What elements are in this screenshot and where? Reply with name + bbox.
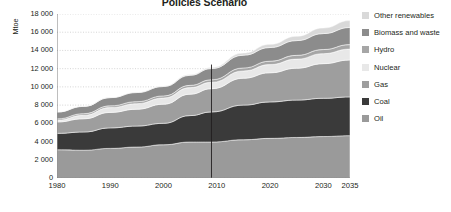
y-axis-tick-labels: 18 00016 00014 00012 00010 0008 0006 000… — [0, 0, 53, 200]
legend-swatch-icon — [362, 81, 369, 88]
y-tick-18000: 18 000 — [30, 10, 53, 18]
legend-item-label: Biomass and waste — [374, 28, 440, 37]
legend-item-biomass-and-waste[interactable]: Biomass and waste — [362, 24, 451, 41]
y-tick-4000: 4 000 — [35, 138, 54, 146]
stacked-area-plot — [57, 14, 350, 178]
legend-swatch-icon — [362, 64, 369, 71]
chart-legend: Other renewablesBiomass and wasteHydroNu… — [362, 7, 451, 127]
legend-swatch-icon — [362, 12, 369, 19]
legend-item-label: Oil — [374, 114, 383, 123]
legend-item-gas[interactable]: Gas — [362, 76, 451, 93]
legend-swatch-icon — [362, 98, 369, 105]
y-tick-8000: 8 000 — [35, 101, 54, 109]
x-tick-2000: 2000 — [144, 181, 184, 190]
chart-figure: Policies Scenario Mtoe 18 00016 00014 00… — [0, 0, 451, 212]
x-tick-2020: 2020 — [250, 181, 290, 190]
legend-item-other-renewables[interactable]: Other renewables — [362, 7, 451, 24]
y-tick-6000: 6 000 — [35, 119, 54, 127]
legend-item-label: Gas — [374, 80, 388, 89]
x-tick-2035: 2035 — [330, 181, 370, 190]
legend-item-label: Other renewables — [374, 11, 434, 20]
y-tick-14000: 14 000 — [30, 46, 53, 54]
x-tick-1980: 1980 — [37, 181, 77, 190]
legend-item-coal[interactable]: Coal — [362, 93, 451, 110]
chart-title: Policies Scenario — [57, 0, 352, 8]
legend-item-label: Coal — [374, 97, 390, 106]
y-tick-16000: 16 000 — [30, 28, 53, 36]
legend-swatch-icon — [362, 46, 369, 53]
legend-item-oil[interactable]: Oil — [362, 110, 451, 127]
legend-swatch-icon — [362, 29, 369, 36]
legend-item-hydro[interactable]: Hydro — [362, 41, 451, 58]
legend-swatch-icon — [362, 115, 369, 122]
legend-item-label: Nuclear — [374, 63, 400, 72]
plot-area — [57, 14, 350, 178]
legend-item-nuclear[interactable]: Nuclear — [362, 59, 451, 76]
y-tick-10000: 10 000 — [30, 83, 53, 91]
y-tick-12000: 12 000 — [30, 65, 53, 73]
legend-item-label: Hydro — [374, 45, 394, 54]
x-tick-2010: 2010 — [197, 181, 237, 190]
x-tick-1990: 1990 — [90, 181, 130, 190]
y-tick-2000: 2 000 — [35, 156, 54, 164]
